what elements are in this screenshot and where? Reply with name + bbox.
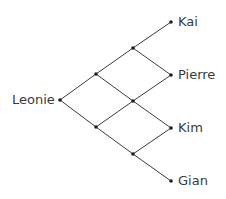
edge-a1-b1 [96, 48, 133, 74]
label-leaf-pierre: Pierre [178, 68, 215, 81]
edge-b1-pierre [133, 48, 171, 75]
label-root-leonie: Leonie [12, 93, 55, 106]
edge-b2-pierre [133, 75, 171, 101]
edge-b1-kai [133, 22, 171, 48]
node-dot-a2 [94, 125, 98, 129]
node-dot-kai [169, 20, 173, 24]
node-dot-kim [169, 126, 173, 130]
node-dot-b1 [131, 46, 135, 50]
edge-b3-gian [133, 154, 171, 181]
edge-a1-b2 [96, 74, 133, 101]
label-leaf-kai: Kai [178, 15, 198, 28]
node-dot-leonie [58, 98, 62, 102]
edge-b2-kim [133, 101, 171, 128]
edge-a2-b2 [96, 101, 133, 127]
edge-leonie-a1 [60, 74, 96, 100]
edge-a2-b3 [96, 127, 133, 154]
edge-b3-kim [133, 128, 171, 154]
edges [60, 22, 171, 181]
label-leaf-kim: Kim [178, 121, 203, 134]
node-dot-gian [169, 179, 173, 183]
node-dot-pierre [169, 73, 173, 77]
label-leaf-gian: Gian [178, 174, 208, 187]
edge-leonie-a2 [60, 100, 96, 127]
node-dot-b3 [131, 152, 135, 156]
node-dot-b2 [131, 99, 135, 103]
nodes [58, 20, 173, 183]
node-dot-a1 [94, 72, 98, 76]
